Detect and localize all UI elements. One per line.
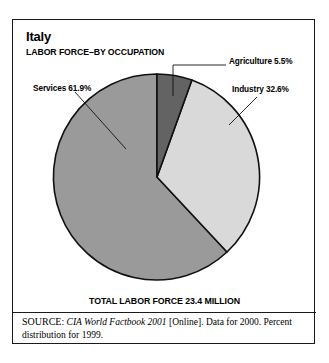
source-note: SOURCE: CIA World Factbook 2001 [Online]… [22, 316, 310, 341]
source-work-title: CIA World Factbook 2001 [67, 317, 167, 327]
slice-label-agriculture: Agriculture 5.5% [229, 56, 293, 66]
slice-label-industry: Industry 32.6% [232, 84, 289, 94]
slice-label-services: Services 61.9% [33, 83, 91, 93]
total-labor-force-caption: TOTAL LABOR FORCE 23.4 MILLION [16, 296, 313, 306]
source-prefix: SOURCE: [22, 316, 64, 327]
source-divider [13, 312, 316, 313]
figure-frame: Italy LABOR FORCE–BY OCCUPATION Services… [12, 19, 315, 344]
